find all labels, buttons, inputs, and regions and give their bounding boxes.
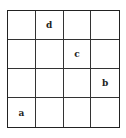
grid-cell-r1c4: [91, 11, 119, 40]
grid-cell-r4c1: a: [8, 98, 36, 127]
grid-cell-r3c4: b: [91, 69, 119, 98]
grid-cell-r3c1: [8, 69, 36, 98]
grid-cell-r2c1: [8, 40, 36, 69]
grid-cell-r2c2: [36, 40, 64, 69]
grid-cell-r1c3: [64, 11, 92, 40]
grid-cell-r3c3: [64, 69, 92, 98]
grid-cell-r4c3: [64, 98, 92, 127]
grid-cell-r2c3: c: [64, 40, 92, 69]
grid-cell-r3c2: [36, 69, 64, 98]
grid-cell-r4c4: [91, 98, 119, 127]
grid-cell-r1c2: d: [36, 11, 64, 40]
grid-cell-r2c4: [91, 40, 119, 69]
letter-grid: d c b a: [7, 10, 120, 128]
grid-cell-r4c2: [36, 98, 64, 127]
grid-cell-r1c1: [8, 11, 36, 40]
